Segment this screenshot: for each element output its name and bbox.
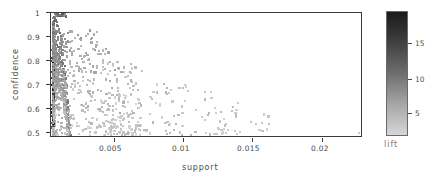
scatter-point (124, 76, 126, 78)
scatter-point (210, 91, 212, 93)
scatter-point (266, 128, 268, 130)
scatter-point (116, 94, 118, 96)
scatter-point (57, 121, 59, 123)
scatter-point (261, 130, 263, 132)
scatter-point (64, 65, 66, 67)
scatter-point (232, 106, 234, 108)
scatter-point (130, 79, 132, 81)
scatter-point (92, 65, 94, 67)
scatter-point (87, 109, 89, 111)
scatter-point (258, 129, 260, 131)
scatter-point (93, 71, 95, 73)
scatter-point (87, 105, 89, 107)
scatter-point (107, 103, 109, 105)
scatter-point (87, 79, 89, 81)
scatter-point (107, 108, 109, 110)
scatter-point (115, 102, 117, 104)
colorbar (386, 11, 408, 136)
scatter-point (52, 91, 54, 93)
scatter-point (127, 83, 129, 85)
scatter-point (84, 111, 86, 113)
colorbar-tick-label-5: 5 (415, 109, 420, 118)
y-axis-title: confidence (11, 48, 20, 100)
scatter-point (99, 108, 101, 110)
scatter-point (102, 111, 104, 113)
scatter-point (58, 114, 60, 116)
scatter-point (234, 130, 236, 132)
scatter-point (166, 87, 168, 89)
scatter-point (175, 123, 177, 125)
y-tick-label-1: 1 (16, 9, 40, 18)
scatter-point (131, 132, 133, 134)
scatter-point (102, 122, 104, 124)
scatter-point (109, 80, 111, 82)
scatter-point (117, 87, 119, 89)
scatter-point (135, 82, 137, 84)
scatter-point (113, 133, 115, 135)
scatter-point (131, 110, 133, 112)
scatter-point (69, 62, 71, 64)
scatter-point (93, 78, 95, 80)
scatter-point (116, 61, 118, 63)
x-tick-label-001: 0.01 (172, 144, 190, 153)
scatter-point (204, 98, 206, 100)
scatter-point (132, 89, 134, 91)
scatter-point (139, 117, 141, 119)
scatter-point (83, 55, 85, 57)
scatter-point (195, 109, 197, 111)
scatter-point (161, 116, 163, 118)
scatter-point (69, 117, 71, 119)
scatter-point (170, 89, 172, 91)
scatter-point (82, 80, 84, 82)
scatter-point (155, 102, 157, 104)
scatter-point (255, 123, 257, 125)
scatter-point (102, 66, 104, 68)
scatter-point (96, 41, 98, 43)
scatter-point (109, 70, 111, 72)
scatter-point (55, 85, 57, 87)
x-tick-label-0015: 0.015 (237, 144, 260, 153)
scatter-point (61, 132, 63, 134)
scatter-point (94, 99, 96, 101)
scatter-point (215, 112, 217, 114)
scatter-point (123, 94, 125, 96)
scatter-point (108, 92, 110, 94)
scatter-point (123, 66, 125, 68)
scatter-point (134, 129, 136, 131)
scatter-point (112, 122, 114, 124)
scatter-point (52, 73, 54, 75)
scatter-point (82, 61, 84, 63)
scatter-point (93, 33, 95, 35)
scatter-point (52, 134, 54, 136)
scatter-point (171, 100, 173, 102)
scatter-point (222, 131, 224, 133)
scatter-point (61, 41, 63, 43)
scatter-point (77, 82, 79, 84)
scatter-point (52, 41, 54, 43)
scatter-point (117, 67, 119, 69)
scatter-point (103, 102, 105, 104)
scatter-point (235, 109, 237, 111)
scatter-point (268, 123, 270, 125)
scatter-point (73, 80, 75, 82)
scatter-point (106, 114, 108, 116)
scatter-point (261, 122, 263, 124)
scatter-point (52, 63, 54, 65)
x-tick-mark (114, 138, 115, 142)
scatter-point (118, 100, 120, 102)
scatter-point (70, 127, 72, 129)
scatter-point (55, 75, 57, 77)
scatter-point (56, 134, 58, 136)
scatter-point (52, 122, 54, 124)
scatter-point (89, 80, 91, 82)
scatter-point (141, 70, 143, 72)
scatter-point (151, 98, 153, 100)
scatter-point (137, 121, 139, 123)
scatter-point (98, 126, 100, 128)
x-tick-mark (183, 138, 184, 142)
scatter-point (90, 95, 92, 97)
scatter-point (128, 125, 130, 127)
scatter-point (112, 118, 114, 120)
scatter-point (124, 134, 126, 136)
scatter-point (80, 91, 82, 93)
